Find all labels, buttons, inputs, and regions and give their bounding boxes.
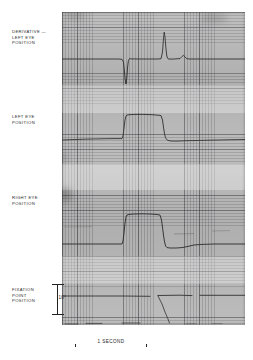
figure-root: DERIVATIVE — LEFT EYE POSITION LEFT EYE … — [0, 0, 253, 360]
trace-fixation-point-transition — [158, 296, 170, 323]
trace-derivative-left-eye-position — [62, 32, 245, 84]
channel-label-fixation-point-position: FIXATION POINT POSITION — [12, 287, 35, 304]
chart-paper — [62, 12, 245, 325]
scale-bar-line — [57, 284, 58, 315]
channel-label-right-eye-position: RIGHT EYE POSITION — [12, 195, 38, 206]
horizontal-scale-bar: 1 SECOND — [75, 337, 147, 349]
scale-bar-cap-top — [52, 284, 64, 285]
trace-left-eye-position — [62, 114, 245, 141]
horizontal-scale-label: 1 SECOND — [75, 339, 147, 344]
trace-layer — [62, 12, 245, 325]
horizontal-scale-label-text: 1 SECOND — [95, 339, 127, 344]
vertical-scale-bar: 10° — [50, 283, 66, 316]
vertical-scale-label: 10° — [59, 295, 67, 300]
channel-label-left-eye-position: LEFT EYE POSITION — [12, 114, 35, 125]
channel-label-derivative-left-eye-position: DERIVATIVE — LEFT EYE POSITION — [12, 29, 46, 46]
scale-bar-cap-bottom — [52, 314, 64, 315]
